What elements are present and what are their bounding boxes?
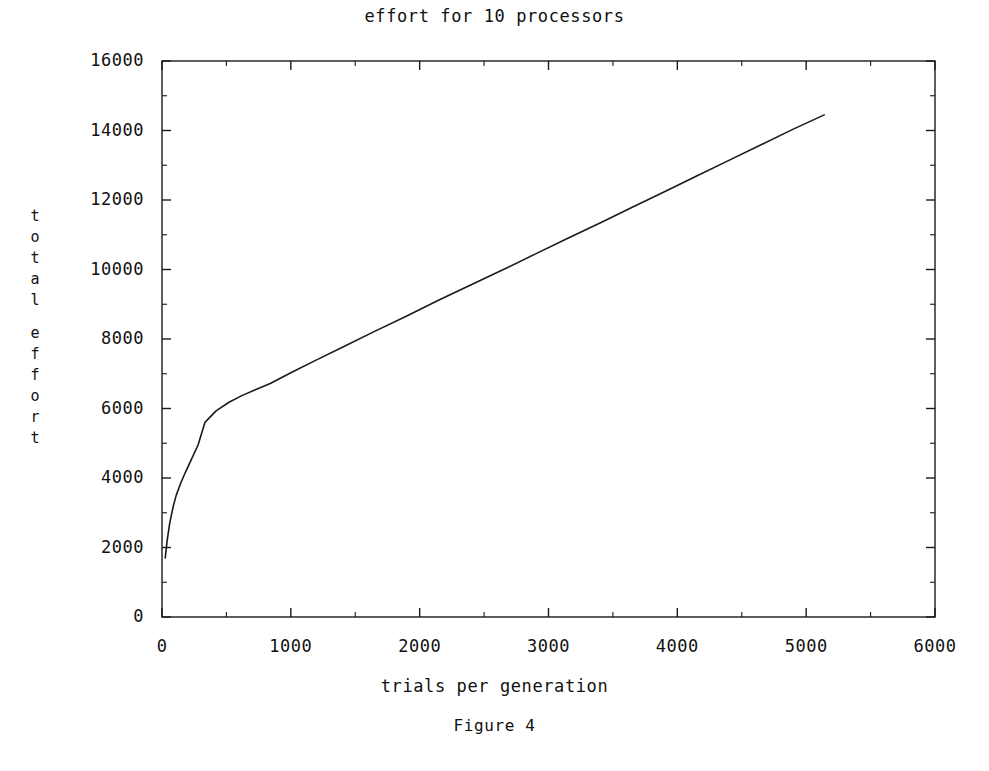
y-tick-label: 6000 [48, 398, 144, 418]
figure-caption: Figure 4 [0, 716, 989, 735]
y-tick-label: 16000 [48, 50, 144, 70]
y-tick-label: 10000 [48, 259, 144, 279]
y-tick-label: 14000 [48, 120, 144, 140]
axes-frame-rect [162, 61, 935, 617]
data-series-line [165, 115, 824, 558]
axis-ticks [162, 61, 935, 617]
y-tick-label: 4000 [48, 467, 144, 487]
x-tick-label: 4000 [627, 636, 727, 656]
x-tick-label: 3000 [499, 636, 599, 656]
axes-frame [162, 61, 935, 617]
y-tick-label: 12000 [48, 189, 144, 209]
y-tick-label: 0 [48, 606, 144, 626]
y-tick-label: 8000 [48, 328, 144, 348]
x-tick-label: 6000 [885, 636, 985, 656]
figure-root: effort for 10 processors t o t a l e f f… [0, 0, 989, 771]
x-axis-title: trials per generation [0, 676, 989, 696]
y-tick-label: 2000 [48, 537, 144, 557]
x-tick-label: 5000 [756, 636, 856, 656]
x-tick-label: 1000 [241, 636, 341, 656]
data-series-group [165, 115, 824, 558]
x-tick-label: 0 [112, 636, 212, 656]
x-tick-label: 2000 [370, 636, 470, 656]
